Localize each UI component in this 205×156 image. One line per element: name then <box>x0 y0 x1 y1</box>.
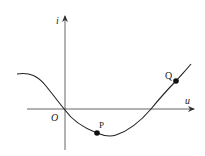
point-p-marker <box>94 130 100 136</box>
origin-label: O <box>51 112 58 123</box>
u-axis-label: u <box>185 95 190 106</box>
point-q-marker <box>173 78 179 84</box>
i-axis-label: i <box>56 15 59 26</box>
point-p-label: P <box>99 120 104 130</box>
diagram-canvas: i u O P Q <box>0 0 205 156</box>
point-q-label: Q <box>165 70 173 81</box>
